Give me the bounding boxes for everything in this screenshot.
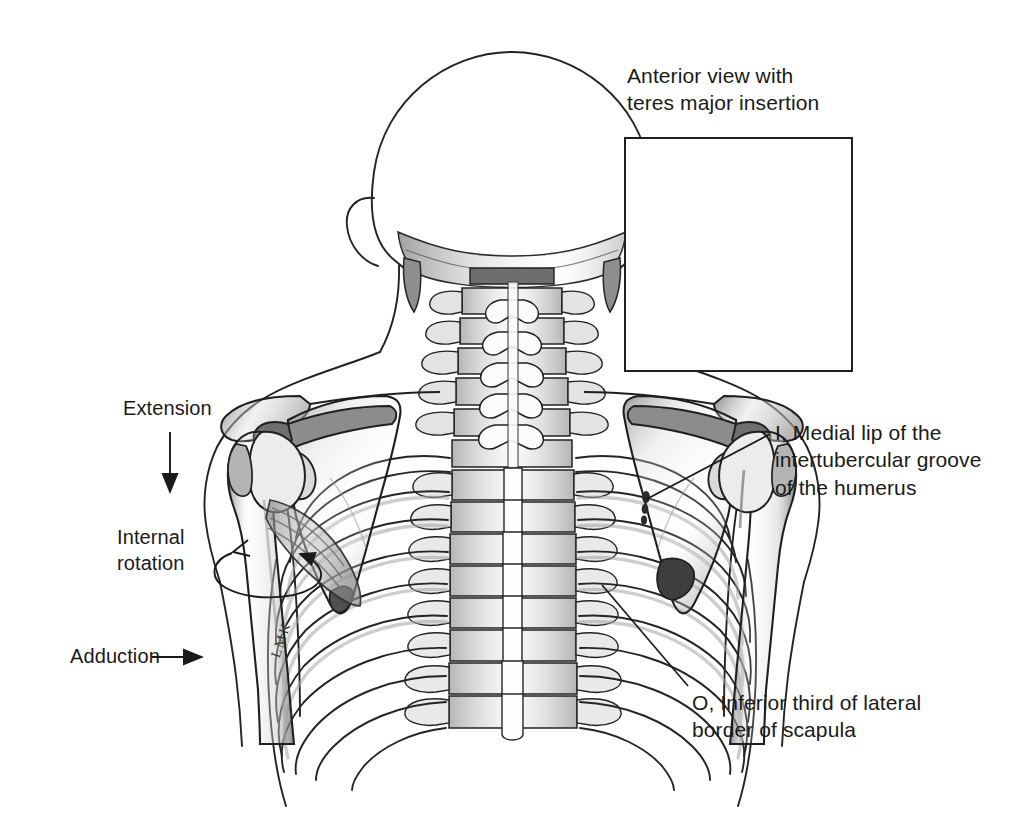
thoracolumbar-spine <box>405 468 621 740</box>
motion-label-adduction: Adduction <box>70 643 160 669</box>
callout-insertion-label: I, Medial lip of the intertubercular gro… <box>775 419 981 501</box>
callout-origin-label: O, Inferior third of lateral border of s… <box>692 689 921 744</box>
inset-frame-border <box>624 137 853 372</box>
inset-title: Anterior view with teres major insertion <box>627 62 819 117</box>
cervical-spine <box>416 268 608 468</box>
motion-label-extension: Extension <box>123 395 212 421</box>
motion-label-internal-rotation: Internal rotation <box>117 524 185 576</box>
illustration-canvas: Anterior view with teres major insertion… <box>0 0 1025 823</box>
